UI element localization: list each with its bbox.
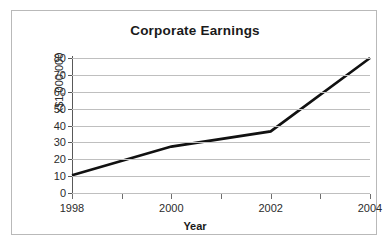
gridline — [72, 109, 370, 110]
gridline — [72, 159, 370, 160]
x-axis-tick-label: 2000 — [151, 202, 191, 214]
x-axis-title: Year — [12, 220, 378, 232]
x-axis-tick-mark — [320, 194, 321, 199]
chart-title: Corporate Earnings — [12, 23, 378, 38]
y-axis-title: x$1,000,000 — [53, 28, 65, 138]
x-axis-tick-label: 1998 — [52, 202, 92, 214]
x-axis-tick-mark — [171, 194, 172, 199]
x-axis-tick-label: 2004 — [350, 202, 390, 214]
gridline — [72, 126, 370, 127]
y-axis-tick-label: 0 — [40, 187, 66, 199]
y-axis-tick-label: 20 — [40, 153, 66, 165]
x-axis-tick-mark — [122, 194, 123, 199]
plot-area — [72, 58, 370, 193]
chart-container: Corporate Earnings 01020304050607080 x$1… — [11, 10, 377, 235]
x-axis-tick-mark — [271, 194, 272, 199]
x-axis-tick-mark — [72, 194, 73, 199]
gridline — [72, 142, 370, 143]
gridline — [72, 75, 370, 76]
gridline — [72, 92, 370, 93]
x-axis-tick-label: 2002 — [251, 202, 291, 214]
y-axis-tick-label: 10 — [40, 170, 66, 182]
x-axis-tick-mark — [370, 194, 371, 199]
y-axis-tick-label: 30 — [40, 136, 66, 148]
x-axis-tick-marks — [72, 194, 370, 200]
x-axis-tick-labels: 1998200020022004 — [72, 202, 370, 216]
gridline — [72, 176, 370, 177]
x-axis-tick-mark — [221, 194, 222, 199]
gridline — [72, 58, 370, 59]
